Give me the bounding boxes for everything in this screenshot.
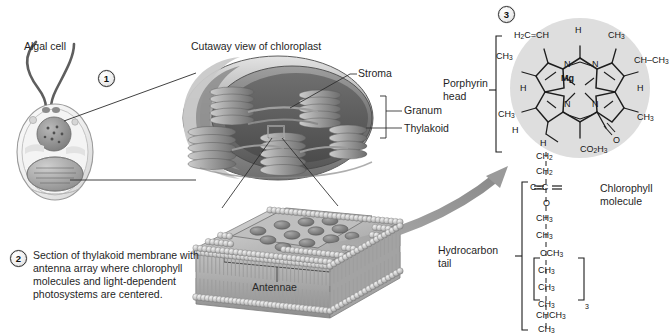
algal-cell-illustration (17, 42, 93, 200)
chem-carbonyl-o: O (613, 136, 620, 145)
bilayer-beads-front (193, 207, 404, 315)
algal-cell-label: Algal cell (24, 40, 66, 53)
chem-lower-left-ch3: CH3 (498, 110, 515, 120)
tail-o: O (543, 199, 550, 208)
tail-ch3-4: CH3 (538, 283, 555, 293)
chem-right-h: H (637, 84, 644, 93)
tail-ch3-1: CH3 (536, 214, 553, 224)
curved-arrow (330, 166, 508, 248)
grana-stacks (188, 87, 367, 176)
chem-lower-left-h: H (512, 126, 519, 135)
tail-chch3: CHCH3 (536, 311, 566, 321)
antennae-bracket (224, 252, 330, 272)
antennae-label: Antennae (252, 281, 297, 294)
thylakoid-zoom-box (268, 126, 284, 138)
chloroplast-cutaway-illustration (183, 56, 373, 180)
tail-cch3: CCH3 (540, 249, 563, 259)
tail-ch3-2: CH3 (536, 231, 553, 241)
chem-vinyl: H2C=CH (514, 31, 549, 41)
marker-2: 2 (10, 250, 27, 267)
porphyrin-head-label-line1: Porphyrin (443, 77, 488, 90)
leader-box-left (222, 138, 272, 208)
chem-right-ch-ch3: CH–CH3 (634, 56, 669, 66)
thylakoid-membrane-block-illustration (196, 208, 400, 318)
tail-ch2-1: CH2 (536, 152, 553, 162)
chem-left-ch3: CH3 (496, 52, 513, 62)
marker-3: 3 (498, 6, 515, 23)
chem-n-top-left: N (564, 60, 571, 69)
chlorophyll-molecule-label-line1: Chlorophyll (600, 182, 653, 195)
chloroplast-title: Cutaway view of chloroplast (191, 40, 321, 53)
chem-top-h: H (575, 26, 582, 35)
stroma-label: Stroma (358, 67, 392, 80)
chem-n-bottom-right: N (592, 100, 599, 109)
tail-repeat-subscript: 3 (585, 302, 589, 311)
chem-lower-right-ch3: CH3 (637, 113, 654, 123)
chem-n-top-right: N (592, 60, 599, 69)
chem-ester: CO2H3 (580, 145, 607, 155)
antenna-array-patch (232, 208, 372, 248)
hydrocarbon-tail-label-line2: tail (438, 257, 451, 270)
tail-ch3-3: CH3 (538, 266, 555, 276)
chem-center-mg: Mg (561, 74, 574, 83)
chem-bottom-h: H (540, 139, 547, 148)
hydrocarbon-tail-label-line1: Hydrocarbon (438, 244, 498, 257)
chem-n-bottom-left: N (564, 100, 571, 109)
tail-c-eq-c: C=C (530, 183, 548, 192)
chem-top-right-ch3: CH3 (608, 31, 625, 41)
thylakoid-membrane-caption: Section of thylakoid membrane with anten… (33, 249, 218, 301)
thylakoid-label: Thylakoid (404, 122, 449, 135)
marker-1: 1 (98, 70, 115, 87)
chlorophyll-molecule-label-line2: molecule (600, 195, 642, 208)
granum-label: Granum (404, 104, 442, 117)
tail-ch3-5: CH3 (538, 300, 555, 310)
figure-root: Algal cell 1 Cutaway view of chloroplast… (0, 0, 671, 334)
leader-box-right (282, 138, 338, 206)
chem-left-h: H (520, 84, 527, 93)
porphyrin-head-label-line2: head (443, 90, 466, 103)
leader-cell-to-chloroplast-top (64, 73, 196, 121)
tail-ch3-6: CH3 (538, 325, 555, 334)
tail-ch2-2: CH2 (536, 167, 553, 177)
antenna-discs (250, 217, 359, 251)
leader-stroma (290, 74, 350, 108)
